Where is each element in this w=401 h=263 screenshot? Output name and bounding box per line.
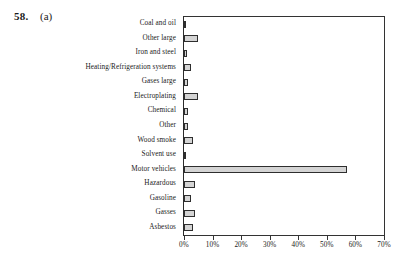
bars-layer	[184, 17, 384, 235]
category-label: Other large	[0, 34, 180, 42]
bar	[184, 137, 193, 144]
category-label: Solvent use	[0, 150, 180, 158]
category-label: Other	[0, 121, 180, 129]
category-label: Asbestos	[0, 223, 180, 231]
category-axis-labels: Coal and oilOther largeIron and steelHea…	[0, 16, 180, 236]
x-axis-tick	[355, 236, 356, 240]
x-axis-tick-label: 30%	[255, 241, 285, 250]
x-axis-tick-label: 10%	[198, 241, 228, 250]
bar	[184, 64, 191, 71]
figure: 58. (a) Coal and oilOther largeIron and …	[0, 0, 401, 263]
category-label: Coal and oil	[0, 19, 180, 27]
category-label: Gases large	[0, 77, 180, 85]
x-axis-tick-label: 40%	[283, 241, 313, 250]
category-label: Heating/Refrigeration systems	[0, 63, 180, 71]
x-axis-tick-label: 50%	[312, 241, 342, 250]
bar	[184, 224, 193, 231]
bar	[184, 123, 188, 130]
category-label: Gasses	[0, 208, 180, 216]
bar	[184, 50, 187, 57]
x-axis-tick	[298, 236, 299, 240]
bar	[184, 79, 188, 86]
category-label: Hazardous	[0, 179, 180, 187]
x-axis-tick	[213, 236, 214, 240]
x-axis-tick-label: 70%	[369, 241, 399, 250]
bar	[184, 93, 198, 100]
bar	[184, 152, 186, 159]
bar	[184, 195, 191, 202]
x-axis-tick-label: 20%	[226, 241, 256, 250]
category-label: Wood smoke	[0, 136, 180, 144]
x-axis-tick-label: 0%	[169, 241, 199, 250]
x-axis-tick	[184, 236, 185, 240]
x-axis-tick	[384, 236, 385, 240]
bar	[184, 21, 186, 28]
category-label: Chemical	[0, 106, 180, 114]
bar	[184, 210, 195, 217]
category-label: Iron and steel	[0, 48, 180, 56]
category-label: Gasoline	[0, 194, 180, 202]
bar	[184, 35, 198, 42]
bar	[184, 166, 347, 173]
x-axis-tick	[270, 236, 271, 240]
x-axis-tick	[327, 236, 328, 240]
bar	[184, 181, 195, 188]
x-axis-tick	[241, 236, 242, 240]
x-axis-tick-label: 60%	[340, 241, 370, 250]
bar	[184, 108, 188, 115]
category-label: Electroplating	[0, 92, 180, 100]
category-label: Motor vehicles	[0, 165, 180, 173]
